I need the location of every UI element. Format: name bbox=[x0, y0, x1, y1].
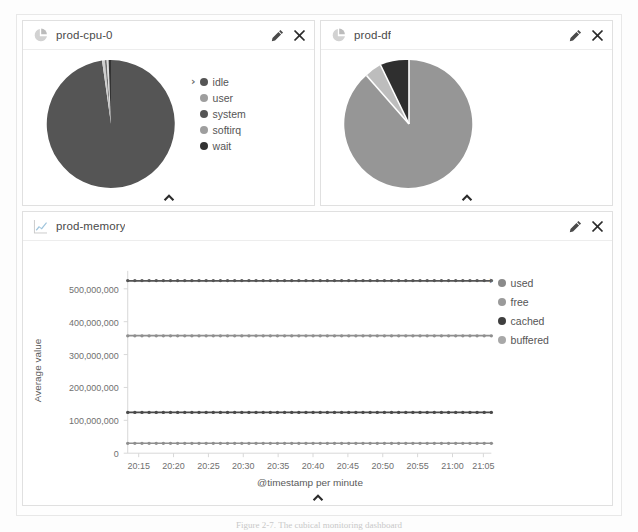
legend-items: idle user system softirq bbox=[200, 74, 246, 154]
legend-item-cached[interactable]: cached bbox=[498, 311, 549, 330]
edit-pencil-icon[interactable] bbox=[569, 220, 582, 233]
pie-chart-icon bbox=[33, 28, 48, 43]
legend-label: used bbox=[511, 277, 534, 289]
x-axis-title: @timestamp per minute bbox=[257, 477, 363, 488]
panel-prod-memory[interactable]: prod-memory Average value 500,000,000 bbox=[22, 211, 613, 506]
x-tick-label: 20:55 bbox=[406, 461, 428, 471]
panel-actions bbox=[569, 29, 604, 42]
screenshot-root: prod-cpu-0 bbox=[0, 0, 638, 532]
panel-prod-cpu-0[interactable]: prod-cpu-0 bbox=[22, 20, 315, 206]
panel-title: prod-cpu-0 bbox=[56, 29, 113, 41]
legend-swatch bbox=[200, 126, 208, 134]
x-tick-label: 20:15 bbox=[127, 461, 149, 471]
panel-header: prod-cpu-0 bbox=[23, 21, 314, 50]
legend-swatch bbox=[498, 279, 506, 287]
legend-label: cached bbox=[511, 315, 545, 327]
legend-swatch bbox=[498, 298, 506, 306]
legend-swatch bbox=[200, 142, 208, 150]
legend-item-wait[interactable]: wait bbox=[200, 138, 246, 154]
pie-chart-prod-cpu-0 bbox=[23, 50, 314, 205]
legend-label: softirq bbox=[213, 124, 242, 136]
x-tick-label: 20:50 bbox=[372, 461, 394, 471]
legend-expand-chevron-icon[interactable]: › bbox=[191, 74, 196, 89]
legend-item-buffered[interactable]: buffered bbox=[498, 330, 549, 349]
x-tick-label: 21:00 bbox=[441, 461, 463, 471]
legend-item-idle[interactable]: idle bbox=[200, 74, 246, 90]
legend-items: used free cached buffered bbox=[498, 273, 549, 349]
legend-label: buffered bbox=[511, 334, 549, 346]
legend-swatch bbox=[200, 94, 208, 102]
legend-item-user[interactable]: user bbox=[200, 90, 246, 106]
panel-header: prod-memory bbox=[23, 212, 612, 241]
close-icon[interactable] bbox=[293, 29, 306, 42]
pie-chart-prod-df bbox=[321, 50, 612, 205]
x-tick-label: 20:25 bbox=[197, 461, 219, 471]
edit-pencil-icon[interactable] bbox=[271, 29, 284, 42]
x-tick-label: 20:20 bbox=[162, 461, 184, 471]
y-tick-label: 100,000,000 bbox=[69, 416, 119, 426]
pie-svg bbox=[339, 54, 479, 194]
collapse-chevron-up-icon[interactable] bbox=[309, 490, 327, 504]
panel-actions bbox=[271, 29, 306, 42]
pie-svg bbox=[41, 54, 181, 194]
legend-swatch bbox=[498, 317, 506, 325]
y-tick-label: 400,000,000 bbox=[69, 318, 119, 328]
x-axis bbox=[128, 453, 492, 457]
y-tick-label: 0 bbox=[114, 449, 119, 459]
x-tick-label: 20:45 bbox=[337, 461, 359, 471]
series-free bbox=[126, 334, 493, 337]
legend-label: free bbox=[511, 296, 529, 308]
x-tick-label: 20:40 bbox=[302, 461, 324, 471]
collapse-chevron-up-icon[interactable] bbox=[458, 190, 476, 204]
legend-label: wait bbox=[213, 140, 232, 152]
legend-swatch bbox=[498, 336, 506, 344]
series-used bbox=[126, 279, 493, 282]
figure-caption: Figure 2-7. The cubical monitoring dashb… bbox=[0, 520, 638, 532]
panel-prod-df[interactable]: prod-df bbox=[320, 20, 613, 206]
legend-item-softirq[interactable]: softirq bbox=[200, 122, 246, 138]
legend-expand-chevron-icon[interactable]: › bbox=[489, 273, 494, 288]
legend-item-free[interactable]: free bbox=[498, 292, 549, 311]
series-buffered bbox=[126, 442, 493, 445]
collapse-chevron-up-icon[interactable] bbox=[160, 190, 178, 204]
panel-body: Average value 500,000,000 400,000,000 30… bbox=[23, 241, 612, 505]
panel-actions bbox=[569, 220, 604, 233]
panel-body: › free used reserved bbox=[321, 50, 612, 205]
edit-pencil-icon[interactable] bbox=[569, 29, 582, 42]
legend-item-used[interactable]: used bbox=[498, 273, 549, 292]
y-axis-title: Average value bbox=[32, 338, 43, 402]
x-tick-label: 21:05 bbox=[472, 461, 494, 471]
x-tick-label: 20:35 bbox=[267, 461, 289, 471]
legend-label: system bbox=[213, 108, 246, 120]
legend-swatch bbox=[200, 78, 208, 86]
legend-swatch bbox=[200, 110, 208, 118]
x-tick-label: 20:30 bbox=[232, 461, 254, 471]
panel-header: prod-df bbox=[321, 21, 612, 50]
series-cached bbox=[126, 411, 493, 414]
y-tick-label: 300,000,000 bbox=[69, 351, 119, 361]
y-axis bbox=[124, 271, 128, 453]
y-tick-label: 200,000,000 bbox=[69, 383, 119, 393]
legend-prod-cpu-0: › idle user system bbox=[191, 74, 246, 154]
close-icon[interactable] bbox=[591, 29, 604, 42]
panel-body: › idle user system bbox=[23, 50, 314, 205]
legend-prod-memory: › used free cached bbox=[489, 273, 549, 349]
line-chart-icon bbox=[33, 219, 48, 234]
dashboard-container: prod-cpu-0 bbox=[16, 14, 622, 516]
close-icon[interactable] bbox=[591, 220, 604, 233]
panel-title: prod-memory bbox=[56, 220, 125, 232]
legend-label: idle bbox=[213, 76, 229, 88]
legend-item-system[interactable]: system bbox=[200, 106, 246, 122]
panel-title: prod-df bbox=[354, 29, 391, 41]
legend-label: user bbox=[213, 92, 233, 104]
y-tick-label: 500,000,000 bbox=[69, 285, 119, 295]
pie-chart-icon bbox=[331, 28, 346, 43]
